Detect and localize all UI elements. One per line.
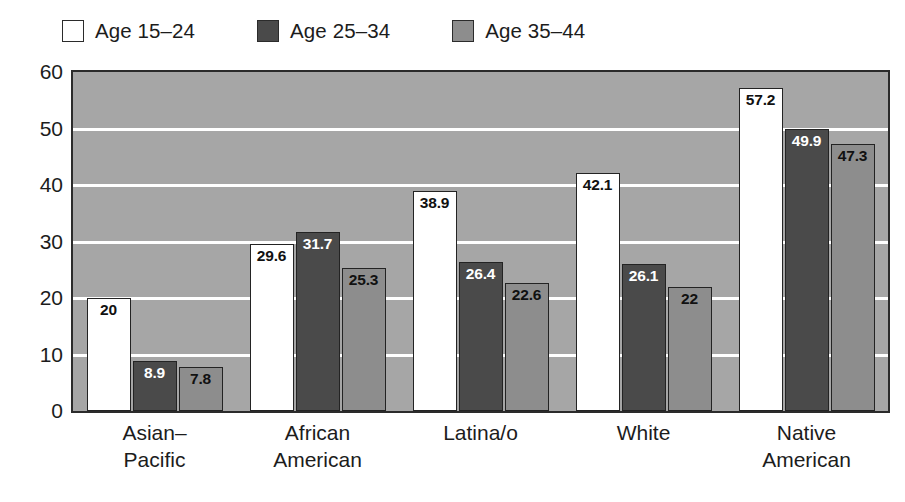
- x-axis-label-2: Latina/o: [443, 419, 518, 446]
- y-tick-label-50: 50: [40, 117, 63, 141]
- bar-value-label: 22.6: [512, 287, 541, 410]
- bar-value-label: 25.3: [349, 272, 378, 410]
- bar: 22: [668, 287, 712, 411]
- bar: 8.9: [133, 361, 177, 411]
- bar: 22.6: [505, 283, 549, 411]
- bar: 29.6: [250, 244, 294, 411]
- bar-value-label: 57.2: [746, 92, 775, 410]
- bar-value-label: 38.9: [420, 195, 449, 410]
- x-axis-label-line: Asian–: [122, 419, 186, 446]
- y-tick-label-10: 10: [40, 343, 63, 367]
- bar-value-label: 29.6: [257, 248, 286, 410]
- bar-value-label: 47.3: [838, 148, 867, 410]
- legend-item-age_35_44: Age 35–44: [452, 19, 585, 43]
- x-axis-label-line: Latina/o: [443, 419, 518, 446]
- x-axis-label-0: Asian–Pacific: [122, 419, 186, 473]
- bar-value-label: 7.8: [190, 371, 211, 410]
- bar: 57.2: [739, 88, 783, 411]
- bar: 49.9: [785, 129, 829, 411]
- legend-swatch-age_15_24: [62, 20, 84, 42]
- legend-label-age_35_44: Age 35–44: [485, 19, 585, 43]
- bar: 26.1: [622, 264, 666, 411]
- bar-value-label: 22: [681, 291, 698, 410]
- bar-value-label: 26.1: [629, 268, 658, 410]
- legend-item-age_25_34: Age 25–34: [257, 19, 390, 43]
- legend-label-age_25_34: Age 25–34: [290, 19, 390, 43]
- x-axis-label-4: NativeAmerican: [762, 419, 851, 473]
- x-axis-label-line: American: [762, 446, 851, 473]
- x-axis-label-line: Pacific: [122, 446, 186, 473]
- bar: 25.3: [342, 268, 386, 411]
- plot-area: 208.97.829.631.725.338.926.422.642.126.1…: [71, 70, 890, 413]
- plot-inner: 208.97.829.631.725.338.926.422.642.126.1…: [73, 72, 888, 411]
- x-axis-label-line: African: [273, 419, 362, 446]
- bar-value-label: 26.4: [466, 266, 495, 410]
- bar-value-label: 49.9: [792, 133, 821, 410]
- y-axis: 6050403020100: [0, 70, 63, 415]
- x-axis-label-1: AfricanAmerican: [273, 419, 362, 473]
- y-tick-label-40: 40: [40, 173, 63, 197]
- bar: 20: [87, 298, 131, 411]
- bar-value-label: 42.1: [583, 177, 612, 410]
- y-tick-label-20: 20: [40, 286, 63, 310]
- bar: 42.1: [576, 173, 620, 411]
- bar: 38.9: [413, 191, 457, 411]
- bar-value-label: 8.9: [144, 365, 165, 410]
- x-axis-label-line: American: [273, 446, 362, 473]
- legend-label-age_15_24: Age 15–24: [95, 19, 195, 43]
- bar: 7.8: [179, 367, 223, 411]
- bar: 47.3: [831, 144, 875, 411]
- legend-swatch-age_35_44: [452, 20, 474, 42]
- bar: 26.4: [459, 262, 503, 411]
- legend-swatch-age_25_34: [257, 20, 279, 42]
- x-axis-label-3: White: [617, 419, 671, 446]
- y-tick-label-30: 30: [40, 230, 63, 254]
- chart-legend: Age 15–24Age 25–34Age 35–44: [0, 0, 905, 62]
- bar: 31.7: [296, 232, 340, 411]
- bar-value-label: 20: [100, 302, 117, 410]
- legend-item-age_15_24: Age 15–24: [62, 19, 195, 43]
- x-axis-labels: Asian–PacificAfricanAmericanLatina/oWhit…: [0, 419, 905, 499]
- bar-value-label: 31.7: [303, 236, 332, 410]
- x-axis-label-line: White: [617, 419, 671, 446]
- x-axis-label-line: Native: [762, 419, 851, 446]
- y-tick-label-60: 60: [40, 60, 63, 84]
